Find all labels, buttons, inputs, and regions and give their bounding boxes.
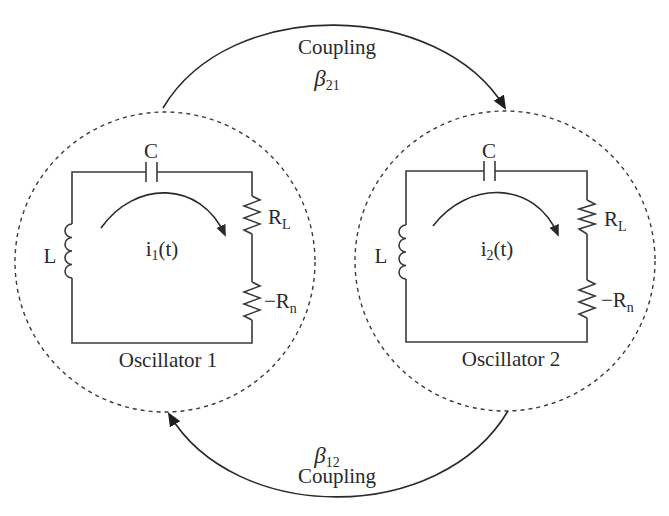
negative-resistor-label: −Rn (601, 288, 634, 315)
inductor-icon (65, 224, 72, 278)
oscillator-2-title: Oscillator 2 (462, 347, 561, 371)
coupled-oscillators-diagram: Coupling β21 β12 Coupling C L RL (0, 0, 669, 516)
inductor-label: L (375, 244, 388, 268)
current-label: i1(t) (146, 237, 179, 263)
negative-resistor-icon (579, 280, 595, 318)
inductor-label: L (44, 244, 57, 268)
capacitor-label: C (144, 139, 158, 163)
oscillator-1-title: Oscillator 1 (119, 348, 218, 372)
inductor-icon (399, 225, 406, 279)
coupling-top-beta: β21 (313, 66, 339, 93)
capacitor-icon (484, 161, 495, 181)
current-arrow-icon (101, 193, 225, 235)
coupling-top: Coupling β21 (163, 25, 505, 108)
capacitor-icon (146, 162, 157, 182)
capacitor-label: C (482, 139, 496, 163)
oscillator-1: C L RL −Rn i1(t) Oscillator 1 (15, 112, 315, 412)
coupling-top-label: Coupling (298, 35, 377, 59)
coupling-bottom: β12 Coupling (169, 411, 508, 497)
negative-resistor-label: −Rn (264, 289, 297, 316)
negative-resistor-icon (244, 282, 260, 320)
current-arrow-icon (433, 193, 558, 235)
current-label: i2(t) (481, 237, 514, 263)
load-resistor-icon (579, 200, 595, 234)
load-resistor-label: RL (604, 207, 627, 234)
load-resistor-label: RL (268, 205, 291, 232)
load-resistor-icon (244, 196, 260, 234)
oscillator-2: C L RL −Rn i2(t) Oscillator 2 (355, 111, 655, 411)
coupling-bottom-label: Coupling (298, 464, 377, 488)
